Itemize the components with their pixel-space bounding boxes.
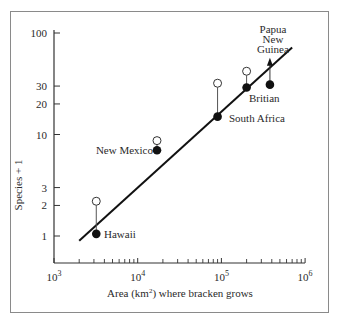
- x-tick-label: 106: [298, 269, 313, 283]
- y-ticks: 123102030100: [31, 27, 61, 242]
- filled-point: [92, 230, 101, 239]
- scatter-chart: 123102030100 103104105106 Species + 1 Ar…: [0, 0, 346, 326]
- open-point: [243, 67, 251, 75]
- x-ticks: 103104105106: [47, 258, 313, 283]
- y-tick-label: 3: [42, 182, 48, 194]
- open-point: [214, 79, 222, 87]
- label-hawaii: Hawaii: [104, 228, 136, 240]
- x-axis-label: Area (km2) where bracken grows: [107, 287, 253, 300]
- open-point: [92, 197, 100, 205]
- open-point: [153, 137, 161, 145]
- x-tick-label: 105: [214, 269, 229, 283]
- y-axis-label: Species + 1: [12, 160, 24, 211]
- y-tick-label: 10: [36, 129, 48, 141]
- label-new-mexico: New Mexico: [96, 144, 154, 156]
- label-south-africa: South Africa: [229, 112, 285, 124]
- filled-point: [266, 80, 275, 89]
- y-tick-label: 100: [31, 27, 48, 39]
- filled-point: [213, 112, 222, 121]
- label-papua-new-guinea: Papua New Guinea: [257, 23, 289, 55]
- y-tick-label: 20: [36, 98, 48, 110]
- y-tick-label: 2: [42, 199, 48, 211]
- label-britian: Britian: [249, 92, 280, 104]
- filled-point: [153, 146, 162, 155]
- y-tick-label: 30: [36, 80, 48, 92]
- y-tick-label: 1: [42, 230, 48, 242]
- filled-point: [242, 83, 251, 92]
- x-tick-label: 103: [47, 269, 62, 283]
- x-tick-label: 104: [130, 269, 145, 283]
- svg-text:Guinea: Guinea: [257, 43, 289, 55]
- arrow-up-icon: [267, 58, 273, 66]
